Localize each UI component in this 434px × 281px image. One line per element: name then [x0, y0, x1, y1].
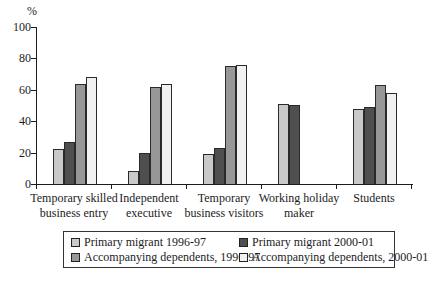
legend: Primary migrant 1996-97Primary migrant 2…: [63, 231, 395, 268]
bar-group: [187, 27, 262, 184]
bar-chart-figure: % 020406080100 Temporary skilledbusiness…: [0, 0, 434, 281]
legend-swatch: [239, 253, 248, 262]
bar-group: [262, 27, 337, 184]
y-axis-tick-label: 20: [2, 146, 31, 160]
bar: [353, 109, 364, 184]
bar: [75, 84, 86, 184]
x-axis-tick-mark: [186, 185, 187, 189]
category-label: Students: [318, 191, 430, 206]
bar: [53, 149, 64, 184]
y-axis-tick-label: 0: [2, 177, 31, 191]
legend-swatch: [239, 238, 248, 247]
bar-group: [337, 27, 412, 184]
bar-group: [37, 27, 112, 184]
bar: [86, 77, 97, 184]
bar: [203, 154, 214, 184]
y-axis-tick-label: 60: [2, 83, 31, 97]
x-axis-tick-mark: [336, 185, 337, 189]
x-axis-line: [36, 184, 413, 185]
y-axis-tick-mark: [31, 90, 36, 91]
legend-item: Primary migrant 1996-97: [71, 235, 239, 249]
x-axis-tick-mark: [261, 185, 262, 189]
bar: [278, 104, 289, 184]
bar: [236, 65, 247, 184]
y-axis-tick-mark: [31, 27, 36, 28]
y-axis-tick-mark: [31, 58, 36, 59]
bar: [64, 142, 75, 184]
legend-swatch: [71, 238, 80, 247]
bar: [386, 93, 397, 184]
x-axis-tick-mark: [111, 185, 112, 189]
legend-swatch: [71, 253, 80, 262]
plot-area: [37, 27, 412, 184]
y-axis-unit-label: %: [27, 4, 37, 19]
y-axis-tick-label: 40: [2, 114, 31, 128]
legend-item: Accompanying dependents, 1996-97: [71, 250, 239, 264]
bar: [128, 171, 139, 184]
bar: [375, 85, 386, 184]
bar-group: [112, 27, 187, 184]
y-axis-tick-mark: [31, 153, 36, 154]
legend-label: Primary migrant 1996-97: [84, 235, 206, 249]
category-label-line: maker: [243, 206, 355, 221]
x-axis-tick-mark: [36, 185, 37, 189]
bar: [289, 105, 300, 184]
bar: [214, 148, 225, 184]
y-axis-tick-label: 80: [2, 51, 31, 65]
bar: [150, 87, 161, 184]
legend-item: Primary migrant 2000-01: [239, 235, 428, 249]
legend-label: Accompanying dependents, 2000-01: [252, 250, 428, 264]
bar: [161, 84, 172, 184]
legend-item: Accompanying dependents, 2000-01: [239, 250, 428, 264]
bar: [139, 153, 150, 184]
category-label-line: Students: [318, 191, 430, 206]
category-axis-labels: Temporary skilledbusiness entryIndepende…: [36, 191, 411, 225]
y-axis-tick-label: 100: [2, 20, 31, 34]
y-axis-tick-mark: [31, 121, 36, 122]
bar: [225, 66, 236, 184]
legend-label: Primary migrant 2000-01: [252, 235, 374, 249]
legend-label: Accompanying dependents, 1996-97: [84, 250, 260, 264]
bar: [364, 107, 375, 184]
x-axis-tick-mark: [411, 185, 412, 189]
